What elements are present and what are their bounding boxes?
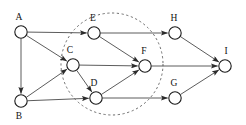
edge-D-F xyxy=(102,70,139,94)
edge-A-E xyxy=(28,32,87,33)
edge-C-D xyxy=(77,70,92,92)
edge-B-C xyxy=(26,69,66,97)
edge-layer xyxy=(21,32,219,101)
node-D[interactable] xyxy=(90,92,102,104)
graph-canvas: ABCDEFGHI xyxy=(0,0,246,125)
node-label-I: I xyxy=(224,46,227,56)
edge-H-I xyxy=(181,37,219,62)
edge-E-F xyxy=(100,37,139,62)
node-label-C: C xyxy=(67,45,73,55)
node-label-D: D xyxy=(91,78,98,88)
node-I[interactable] xyxy=(219,60,231,72)
node-label-G: G xyxy=(171,78,178,88)
node-label-A: A xyxy=(16,12,23,22)
node-A[interactable] xyxy=(15,26,27,38)
graph-diagram: ABCDEFGHI xyxy=(0,0,246,125)
node-C[interactable] xyxy=(67,59,79,71)
edge-G-I xyxy=(181,70,219,94)
node-B[interactable] xyxy=(15,95,27,107)
edge-C-F xyxy=(80,65,138,66)
node-label-E: E xyxy=(90,13,96,23)
edge-A-C xyxy=(27,36,67,61)
label-layer: ABCDEFGHI xyxy=(16,12,228,121)
node-label-F: F xyxy=(141,46,146,56)
edge-B-D xyxy=(28,98,89,100)
node-layer xyxy=(15,26,231,107)
node-H[interactable] xyxy=(169,27,181,39)
node-E[interactable] xyxy=(88,27,100,39)
node-G[interactable] xyxy=(169,92,181,104)
node-label-B: B xyxy=(16,111,22,121)
node-label-H: H xyxy=(171,13,178,23)
node-F[interactable] xyxy=(139,60,151,72)
